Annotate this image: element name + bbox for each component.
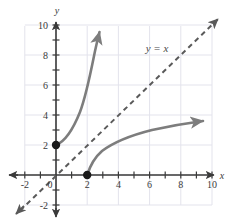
point-0-2 (52, 141, 60, 149)
y-tick-label-4: 4 (43, 110, 48, 121)
x-axis-label: x (219, 170, 225, 181)
x-tick-label--2: -2 (21, 179, 29, 190)
graph-figure: -2 2 4 6 8 10 0 10 8 6 4 2 -2 x y y = x (0, 0, 231, 223)
x-tick-label-10: 10 (207, 179, 217, 190)
y-tick-label-2: 2 (43, 140, 48, 151)
coordinate-plane: -2 2 4 6 8 10 0 10 8 6 4 2 -2 x y y = x (0, 0, 231, 223)
y-tick-label--2: -2 (40, 200, 48, 211)
x-tick-label-8: 8 (178, 179, 183, 190)
point-2-0 (83, 171, 91, 179)
identity-line-label: y = x (145, 42, 169, 54)
y-axis-label: y (54, 5, 60, 16)
y-tick-label-8: 8 (43, 50, 48, 61)
x-tick-label-4: 4 (116, 179, 121, 190)
y-tick-label-6: 6 (43, 80, 48, 91)
origin-label: 0 (48, 179, 53, 190)
y-tick-label-10: 10 (38, 20, 48, 31)
x-tick-label-6: 6 (147, 179, 152, 190)
x-tick-label-2: 2 (85, 179, 90, 190)
